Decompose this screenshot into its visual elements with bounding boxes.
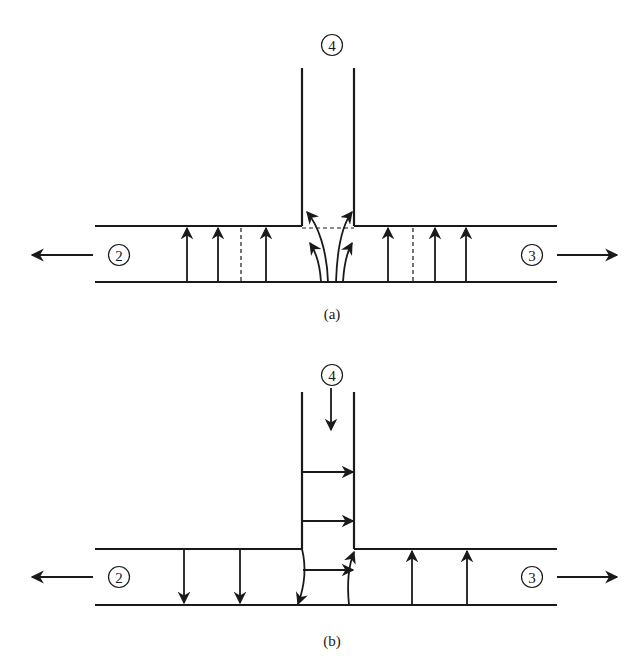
svg-text:3: 3 — [528, 248, 536, 264]
curved-down-arrow-icon — [298, 549, 304, 604]
panel-b: 4 2 3 (b) — [32, 365, 617, 651]
caption-b: (b) — [323, 633, 341, 650]
curved-streamline-arrow-icon — [343, 243, 352, 282]
label-4: 4 — [322, 35, 343, 56]
label-2: 2 — [109, 245, 130, 266]
caption-a: (a) — [324, 306, 341, 323]
label-3: 3 — [522, 567, 543, 588]
curved-streamline-arrow-icon — [307, 212, 328, 282]
curved-streamline-arrow-icon — [310, 243, 321, 282]
svg-text:3: 3 — [528, 570, 536, 586]
label-2: 2 — [109, 567, 130, 588]
tee-junction-diagram: 4 2 3 (a) — [0, 0, 642, 671]
svg-text:2: 2 — [115, 248, 123, 264]
svg-text:4: 4 — [328, 38, 336, 54]
svg-text:4: 4 — [328, 368, 336, 384]
label-3: 3 — [522, 245, 543, 266]
panel-a: 4 2 3 (a) — [32, 35, 617, 324]
svg-text:2: 2 — [115, 570, 123, 586]
label-4: 4 — [322, 365, 343, 386]
curved-up-arrow-icon — [348, 552, 354, 605]
